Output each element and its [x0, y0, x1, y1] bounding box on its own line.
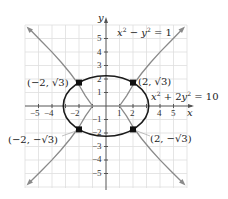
x-tick-label: −5	[30, 109, 40, 118]
y-tick-label: 1	[97, 88, 102, 97]
x-tick-label: 4	[157, 109, 162, 118]
point-2-negsqrt3	[130, 126, 136, 132]
x-tick-label: 1	[117, 109, 122, 118]
y-tick-label: −3	[92, 142, 102, 151]
y-tick-label: 2	[97, 75, 102, 84]
point-2-sqrt3	[130, 80, 136, 86]
x-tick-label: −2	[70, 109, 80, 118]
point-label-neg2-negsqrt3: (−2, −√3)	[8, 135, 58, 145]
x-axis-label: x	[187, 108, 193, 118]
x-tick-label: 2	[130, 109, 135, 118]
ellipse-equation: x2 + 2y2 = 10	[151, 91, 219, 102]
point-neg2-negsqrt3	[76, 126, 82, 132]
y-tick-label: 3	[97, 61, 102, 70]
x-tick-label: −4	[44, 109, 54, 118]
point-label-neg2-sqrt3: (−2, √3)	[27, 78, 69, 88]
y-tick-label: −2	[92, 128, 102, 137]
y-tick-label: 5	[97, 34, 102, 43]
y-tick-label: −4	[92, 155, 102, 164]
y-tick-label: −1	[92, 115, 102, 124]
hyperbola-equation: x2 − y2 = 1	[117, 27, 172, 38]
x-tick-label: 5	[171, 109, 176, 118]
y-axis-label: y	[98, 13, 104, 23]
point-label-2-negsqrt3: (2, −√3)	[150, 134, 192, 144]
graph-figure: y x 5 4 3 2 1 −1 −2 −3 −4 −5 −5 −4 −2 1 …	[0, 0, 228, 199]
point-label-2-sqrt3: (2, √3)	[138, 77, 171, 87]
y-tick-label: 4	[97, 48, 102, 57]
y-tick-label: −5	[92, 169, 102, 178]
y-axis-arrow-icon	[104, 17, 108, 23]
point-neg2-sqrt3	[76, 80, 82, 86]
